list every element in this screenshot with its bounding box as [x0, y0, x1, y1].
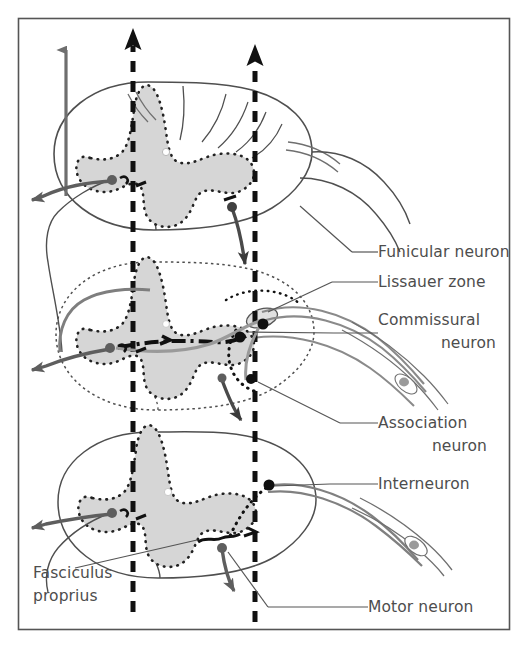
central-canal-lower — [164, 488, 171, 495]
funicular-neuron-soma — [107, 175, 117, 185]
ganglion-cell-lower — [409, 541, 419, 550]
funicular-neuron-soma-3 — [107, 508, 117, 518]
label-interneuron: Interneuron — [378, 475, 470, 493]
spinal-cord-diagram-svg: Funicular neuron Lissauer zone Commissur… — [0, 0, 526, 654]
label-association-neuron-line1: Association — [378, 414, 467, 432]
label-commissural-neuron-line2: neuron — [441, 334, 496, 352]
central-canal-upper — [162, 148, 169, 155]
label-association-neuron-line2: neuron — [432, 437, 487, 455]
label-fasciculus-proprius-line1: Fasciculus — [33, 564, 112, 582]
figure-root: Funicular neuron Lissauer zone Commissur… — [0, 0, 526, 654]
association-neuron-soma-2 — [246, 374, 256, 384]
label-commissural-neuron-line1: Commissural — [378, 311, 480, 329]
ganglion-cell-middle — [399, 378, 409, 387]
lissauer-entry-soma — [258, 319, 269, 330]
association-neuron-soma — [235, 332, 246, 343]
label-motor-neuron: Motor neuron — [368, 598, 473, 616]
motor-neuron-soma-mid — [218, 374, 227, 383]
label-lissauer-zone: Lissauer zone — [378, 273, 486, 291]
central-canal-middle — [163, 321, 170, 328]
label-fasciculus-proprius-line2: proprius — [33, 587, 98, 605]
commissural-neuron-soma — [105, 343, 115, 353]
motor-neuron-soma — [217, 543, 227, 553]
label-funicular-neuron: Funicular neuron — [378, 243, 510, 261]
interneuron-soma — [264, 480, 275, 491]
funicular-neuron-soma-2 — [227, 202, 237, 212]
